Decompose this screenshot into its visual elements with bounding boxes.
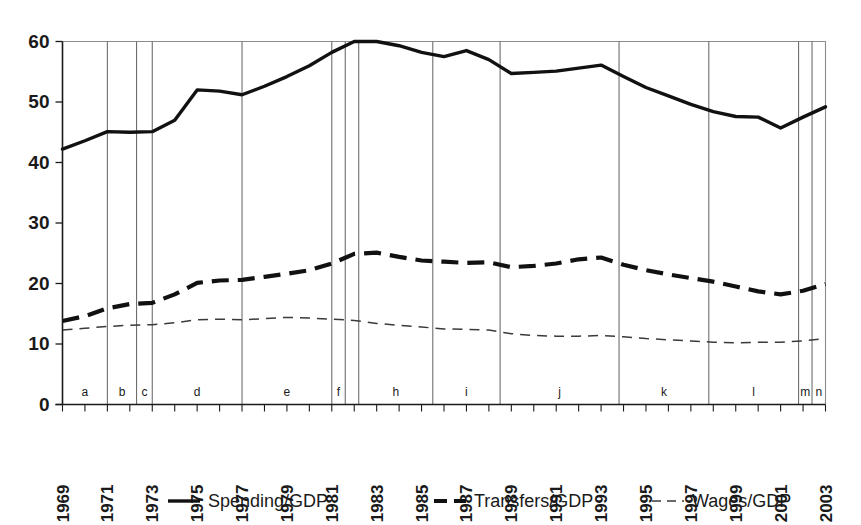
x-tick-label-1993: 1993 <box>592 485 611 523</box>
region-label-n: n <box>815 385 822 399</box>
line-chart: 0102030405060 19691971197319751977197919… <box>0 0 861 525</box>
region-label-i: i <box>465 385 468 399</box>
chart-figure: 0102030405060 19691971197319751977197919… <box>0 0 861 525</box>
region-label-e: e <box>284 385 291 399</box>
region-label-b: b <box>119 385 126 399</box>
region-label-h: h <box>392 385 399 399</box>
legend-item-wages-label: Wages/GDP <box>692 491 791 511</box>
y-tick-label-50: 50 <box>28 91 49 112</box>
region-label-k: k <box>661 385 668 399</box>
region-label-j: j <box>557 385 561 399</box>
y-tick-label-20: 20 <box>28 273 49 294</box>
x-tick-label-2003: 2003 <box>817 485 836 523</box>
region-label-a: a <box>82 385 89 399</box>
chart-legend: Spending/GDPTransfers/GDPWages/GDP <box>168 491 791 511</box>
region-label-m: m <box>800 385 810 399</box>
y-tick-label-30: 30 <box>28 212 49 233</box>
x-tick-label-1995: 1995 <box>637 485 656 523</box>
region-label-c: c <box>141 385 147 399</box>
y-tick-label-40: 40 <box>28 152 49 173</box>
legend-item-spending-label: Spending/GDP <box>208 491 328 511</box>
x-tick-label-1971: 1971 <box>98 485 117 523</box>
y-tick-label-0: 0 <box>39 394 50 415</box>
x-tick-label-1973: 1973 <box>143 485 162 523</box>
x-tick-label-1975: 1975 <box>188 485 207 523</box>
region-label-d: d <box>194 385 201 399</box>
x-tick-label-1983: 1983 <box>368 485 387 523</box>
x-tick-label-1985: 1985 <box>413 485 432 523</box>
region-label-l: l <box>752 385 755 399</box>
y-tick-label-60: 60 <box>28 31 49 52</box>
legend-item-transfers-label: Transfers/GDP <box>474 491 593 511</box>
x-tick-label-1969: 1969 <box>54 485 73 523</box>
y-tick-label-10: 10 <box>28 333 49 354</box>
